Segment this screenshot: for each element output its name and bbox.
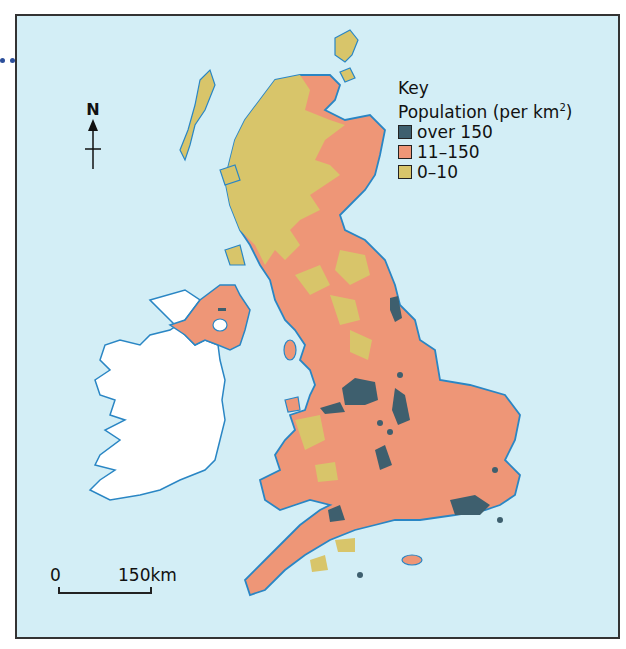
outer-hebrides [180, 70, 215, 160]
scale-bar-line [58, 587, 152, 594]
swatch-medium-density [398, 145, 412, 159]
isle-of-man [284, 340, 296, 360]
key-item-over-150: over 150 [398, 122, 572, 142]
swatch-low-density [398, 165, 412, 179]
isle-of-wight [402, 555, 422, 565]
anglesey [285, 397, 300, 412]
key-heading: Key [398, 78, 572, 98]
key-item-0-10: 0–10 [398, 162, 572, 182]
key-item-11-150: 11–150 [398, 142, 572, 162]
scale-end: 150km [118, 565, 177, 585]
swatch-high-density [398, 125, 412, 139]
scale-start: 0 [50, 565, 61, 585]
map-key: Key Population (per km2) over 150 11–150… [398, 78, 572, 182]
orkney [340, 68, 355, 82]
north-arrow-icon [83, 119, 103, 171]
shetland [335, 30, 358, 62]
north-label: N [68, 100, 118, 119]
key-subheading: Population (per km2) [398, 98, 572, 122]
north-arrow: N [68, 100, 118, 171]
